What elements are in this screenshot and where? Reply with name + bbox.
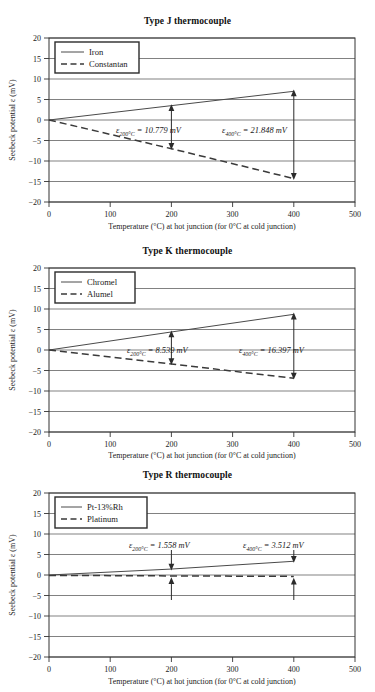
legend-label-2b: Alumel [87, 289, 113, 299]
annotation-label-3a: ε200°C = 1.558 mV [129, 541, 191, 552]
x-tick-label: 200 [165, 440, 177, 449]
y-tick-labels-2: 20 15 10 5 0 −5 −10 −15 −20 [28, 264, 41, 437]
y-tick-label: −10 [28, 612, 41, 621]
y-tick-labels-1: 20 15 10 5 0 −5 −10 −15 −20 [28, 34, 41, 207]
y-tick-label: 0 [37, 346, 41, 355]
y-tick-label: 15 [33, 510, 41, 519]
legend-label-1a: Iron [89, 47, 104, 57]
x-tick-label: 400 [288, 440, 300, 449]
annotation-label-2a: ε200°C = 8.539 mV [127, 346, 189, 357]
annotation-subscript: 200°C [119, 131, 135, 137]
y-ticks-2 [44, 268, 49, 432]
x-tick-label: 500 [349, 210, 361, 219]
legend-label-3b: Platinum [87, 514, 118, 524]
x-tick-label: 200 [165, 210, 177, 219]
x-tick-label: 0 [47, 440, 51, 449]
y-axis-label: Seebeck potential ε (mV) [8, 309, 17, 391]
x-tick-label: 400 [288, 210, 300, 219]
y-tick-label: −10 [28, 157, 41, 166]
x-tick-label: 0 [47, 665, 51, 674]
y-axis-label: Seebeck potential ε (mV) [8, 79, 17, 161]
y-tick-label: 10 [33, 75, 41, 84]
y-tick-label: −5 [32, 137, 41, 146]
y-tick-label: 20 [33, 34, 41, 43]
x-ticks-2 [49, 432, 355, 437]
x-axis-label: Temperature (°C) at hot junction (for 0°… [108, 677, 296, 686]
x-tick-label: 100 [104, 440, 116, 449]
x-tick-label: 500 [349, 440, 361, 449]
y-tick-label: 20 [33, 489, 41, 498]
x-tick-labels-1: 0 100 200 300 400 500 [47, 210, 361, 219]
annotation-subscript: 400°C [242, 351, 258, 357]
y-tick-label: 15 [33, 55, 41, 64]
x-axis-label: Temperature (°C) at hot junction (for 0°… [108, 451, 296, 460]
x-ticks-1 [49, 202, 355, 207]
x-tick-label: 400 [288, 665, 300, 674]
legend-label-3a: Pt-13%Rh [87, 502, 124, 512]
annotation-value: = 1.558 mV [150, 541, 191, 550]
x-tick-label: 0 [47, 210, 51, 219]
y-tick-label: 10 [33, 305, 41, 314]
chart-svg-1: 20 15 10 5 0 −5 −10 −15 −20 0 100 200 30… [0, 0, 375, 232]
y-tick-label: −20 [28, 428, 41, 437]
y-tick-label: −20 [28, 198, 41, 207]
x-tick-label: 200 [165, 665, 177, 674]
y-ticks-1 [44, 38, 49, 202]
y-tick-label: −15 [28, 633, 41, 642]
legend-label-1b: Constantan [89, 59, 128, 69]
y-tick-label: 0 [37, 116, 41, 125]
annotation-value: = 21.848 mV [243, 126, 288, 135]
y-tick-labels-3: 20 15 10 5 0 −5 −10 −15 −20 [28, 489, 41, 662]
x-tick-label: 300 [227, 665, 239, 674]
annotation-value: = 3.512 mV [264, 541, 305, 550]
annotation-value: = 10.779 mV [137, 126, 182, 135]
y-axis-label: Seebeck potential ε (mV) [8, 534, 17, 616]
y-ticks-3 [44, 493, 49, 657]
plot-1: 20 15 10 5 0 −5 −10 −15 −20 0 100 200 30… [0, 0, 375, 232]
x-axis-label: Temperature (°C) at hot junction (for 0°… [108, 222, 296, 231]
x-tick-labels-2: 0 100 200 300 400 500 [47, 440, 361, 449]
y-tick-label: 15 [33, 285, 41, 294]
y-tick-label: −20 [28, 653, 41, 662]
plot-3: 20 15 10 5 0 −5 −10 −15 −20 0 100 200 30… [0, 460, 375, 692]
annotation-label-3b: ε400°C = 3.512 mV [243, 541, 305, 552]
x-ticks-3 [49, 657, 355, 662]
chart-block-type-r: Type R thermocouple [0, 460, 375, 692]
y-tick-label: 20 [33, 264, 41, 273]
annotation-subscript: 400°C [225, 131, 241, 137]
legend-2: Chromel Alumel [55, 272, 135, 303]
chart-svg-2: 20 15 10 5 0 −5 −10 −15 −20 0 100 200 30… [0, 232, 375, 460]
y-tick-label: −15 [28, 408, 41, 417]
legend-1: Iron Constantan [55, 42, 139, 73]
y-tick-label: 0 [37, 571, 41, 580]
y-tick-label: 5 [37, 96, 41, 105]
legend-label-2a: Chromel [87, 277, 118, 287]
legend-3: Pt-13%Rh Platinum [55, 497, 147, 528]
x-tick-label: 300 [227, 440, 239, 449]
chart-block-type-k: Type K thermocouple [0, 232, 375, 460]
series-line-platinum [49, 575, 294, 576]
annotation-subscript: 200°C [132, 546, 148, 552]
chart-block-type-j: Type J thermocouple [0, 0, 375, 232]
x-tick-label: 300 [227, 210, 239, 219]
annotation-label-1b: ε400°C = 21.848 mV [222, 126, 288, 137]
y-tick-label: −15 [28, 178, 41, 187]
y-tick-label: −5 [32, 592, 41, 601]
x-tick-labels-3: 0 100 200 300 400 500 [47, 665, 361, 674]
x-tick-label: 500 [349, 665, 361, 674]
y-tick-label: 10 [33, 530, 41, 539]
annotation-label-2b: ε400°C = 16.397 mV [239, 346, 305, 357]
x-tick-label: 100 [104, 210, 116, 219]
plot-2: 20 15 10 5 0 −5 −10 −15 −20 0 100 200 30… [0, 232, 375, 460]
y-tick-label: −10 [28, 387, 41, 396]
annotation-value: = 16.397 mV [260, 346, 305, 355]
figure-page: Type J thermocouple [0, 0, 375, 692]
annotation-value: = 8.539 mV [148, 346, 189, 355]
annotation-subscript: 200°C [130, 351, 146, 357]
annotation-subscript: 400°C [246, 546, 262, 552]
annotation-arrow-400-1 [291, 90, 297, 180]
y-tick-label: 5 [37, 551, 41, 560]
x-tick-label: 100 [104, 665, 116, 674]
chart-svg-3: 20 15 10 5 0 −5 −10 −15 −20 0 100 200 30… [0, 460, 375, 692]
y-tick-label: −5 [32, 367, 41, 376]
